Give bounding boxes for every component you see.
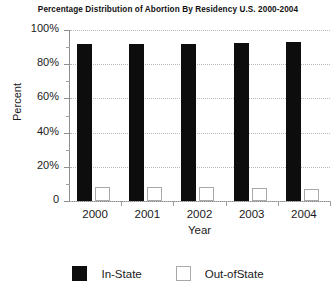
x-axis-tick (226, 201, 227, 206)
y-axis-label: 20% (37, 160, 59, 171)
x-axis-tick (278, 201, 279, 206)
bar-in-state-2000 (77, 44, 92, 201)
x-axis-label-2001: 2001 (121, 208, 173, 220)
legend-swatch-out-of-state (176, 266, 191, 281)
x-axis-label-2000: 2000 (69, 208, 121, 220)
bar-group (69, 30, 121, 201)
bar-group (278, 30, 330, 201)
bar-group (121, 30, 173, 201)
y-axis-title: Percent (11, 67, 23, 137)
y-axis-tick (64, 201, 70, 202)
y-axis-label: 0 (53, 194, 59, 205)
x-axis-tick (121, 201, 122, 206)
y-axis-label: 80% (37, 57, 59, 68)
plot-area (69, 30, 330, 201)
bar-in-state-2002 (181, 44, 196, 201)
legend-label-out-of-state: Out-ofState (205, 268, 264, 280)
bar-group (173, 30, 225, 201)
bar-out-ofstate-2004 (304, 189, 319, 201)
legend-item-in-state: In-State (72, 266, 141, 281)
x-axis-label-2002: 2002 (174, 208, 226, 220)
legend-label-in-state: In-State (101, 268, 141, 280)
legend-item-out-of-state: Out-ofState (176, 266, 264, 281)
bar-group (226, 30, 278, 201)
bar-out-ofstate-2000 (95, 187, 110, 201)
bar-out-ofstate-2002 (199, 187, 214, 201)
bar-out-ofstate-2003 (252, 188, 267, 201)
bar-in-state-2004 (286, 42, 301, 201)
bar-out-ofstate-2001 (147, 187, 162, 201)
chart-title: Percentage Distribution of Abortion By R… (0, 5, 336, 14)
bar-in-state-2001 (129, 44, 144, 201)
y-axis-label: 100% (31, 23, 59, 34)
y-axis-label: 40% (37, 126, 59, 137)
chart-legend: In-State Out-ofState (0, 266, 336, 281)
x-axis-tick (330, 201, 331, 206)
x-axis-title: Year (69, 224, 330, 236)
bar-in-state-2003 (234, 43, 249, 201)
x-axis-label-2004: 2004 (278, 208, 330, 220)
gridline (70, 201, 330, 202)
legend-swatch-in-state (72, 266, 87, 281)
x-axis-tick (173, 201, 174, 206)
y-axis-label: 60% (37, 91, 59, 102)
x-axis-label-2003: 2003 (226, 208, 278, 220)
